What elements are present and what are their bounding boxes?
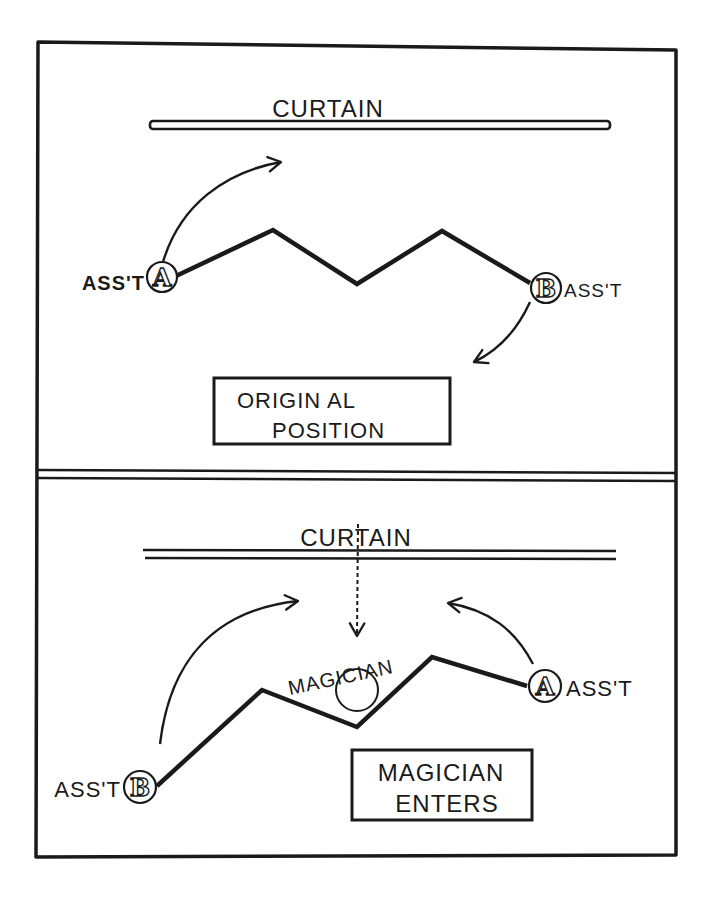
magician-entry-dotted-line [357, 524, 358, 636]
top-caption-line1: ORIGIN AL [237, 388, 356, 413]
assistant-a-label: ASS'T [82, 272, 145, 294]
outer-frame [36, 42, 676, 857]
assistant-b-letter: B [536, 274, 556, 303]
top-zigzag-rope [176, 230, 530, 284]
bottom-curtain-line-top [143, 550, 616, 551]
bottom-assistant-a: A ASS'T [529, 670, 633, 702]
top-arrow-b-to-position [474, 302, 530, 362]
assistant-b-label: ASS'T [564, 280, 622, 301]
top-assistant-b: B ASS'T [531, 273, 622, 303]
top-curtain-bar [150, 121, 610, 129]
assistant-a-letter: A [535, 672, 555, 701]
bottom-arrow-a-to-curtain [448, 603, 533, 664]
bottom-panel: CURTAIN MAGICIAN A ASS'T B ASS'T MAGICIA [54, 524, 632, 820]
bottom-caption-line1: MAGICIAN [378, 759, 505, 786]
top-assistant-a: A ASS'T [82, 262, 177, 294]
assistant-a-label: ASS'T [566, 676, 633, 701]
assistant-b-label: ASS'T [54, 777, 121, 802]
assistant-a-letter: A [152, 263, 172, 292]
assistant-b-letter: B [130, 773, 150, 802]
bottom-caption-line2: ENTERS [395, 790, 498, 817]
panel-separator [38, 470, 676, 481]
bottom-assistant-b: B ASS'T [54, 771, 156, 803]
top-panel: CURTAIN A ASS'T B ASS'T ORIGIN AL POSITI… [82, 95, 622, 444]
bottom-curtain-label: CURTAIN [300, 524, 411, 551]
bottom-curtain-line-bottom [145, 558, 616, 559]
top-caption-line2: POSITION [272, 418, 385, 443]
top-arrow-a-to-curtain [163, 162, 281, 262]
magic-trick-diagram: CURTAIN A ASS'T B ASS'T ORIGIN AL POSITI… [0, 0, 707, 903]
top-curtain-label: CURTAIN [272, 95, 383, 122]
